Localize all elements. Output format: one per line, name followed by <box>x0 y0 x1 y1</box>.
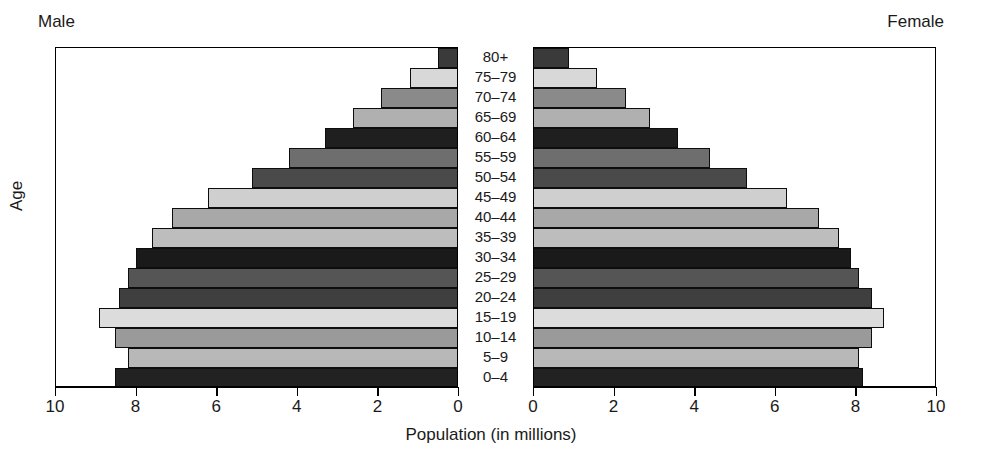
bar-row <box>56 328 457 348</box>
bar-female-0-4 <box>533 368 863 387</box>
bar-female-65-69 <box>533 108 650 128</box>
bar-row <box>534 248 935 268</box>
axis-tick <box>136 387 137 396</box>
age-label-0-4: 0–4 <box>458 367 533 387</box>
bar-male-10-14 <box>115 328 458 348</box>
bar-female-15-19 <box>533 308 884 328</box>
age-label-45-49: 45–49 <box>458 187 533 207</box>
male-x-axis-line <box>55 387 458 388</box>
bar-row <box>534 348 935 368</box>
axis-tick-label: 4 <box>277 397 317 417</box>
bar-row <box>56 168 457 188</box>
bar-female-10-14 <box>533 328 872 348</box>
age-label-15-19: 15–19 <box>458 307 533 327</box>
bar-male-45-49 <box>208 188 458 208</box>
bar-row <box>534 208 935 228</box>
bar-row <box>56 268 457 288</box>
bar-male-70-74 <box>381 88 458 108</box>
female-x-axis-line <box>533 387 936 388</box>
bar-row <box>56 208 457 228</box>
bar-male-5-9 <box>128 348 458 368</box>
bar-female-45-49 <box>533 188 787 208</box>
age-label-5-9: 5–9 <box>458 347 533 367</box>
bar-female-30-34 <box>533 248 851 268</box>
bar-row <box>534 108 935 128</box>
bar-female-75-79 <box>533 68 597 88</box>
bar-row <box>534 88 935 108</box>
age-label-65-69: 65–69 <box>458 107 533 127</box>
age-label-35-39: 35–39 <box>458 227 533 247</box>
bar-male-55-59 <box>289 148 458 168</box>
axis-tick <box>216 387 217 396</box>
y-axis-title: Age <box>7 181 27 211</box>
bar-male-35-39 <box>152 228 458 248</box>
bar-male-15-19 <box>99 308 458 328</box>
bar-row <box>56 188 457 208</box>
bar-row <box>534 48 935 68</box>
axis-tick-label: 8 <box>835 397 875 417</box>
bar-female-80+ <box>533 48 569 68</box>
bar-row <box>534 368 935 387</box>
bar-male-80+ <box>438 48 458 68</box>
axis-tick-label: 2 <box>357 397 397 417</box>
bar-female-25-29 <box>533 268 859 288</box>
male-plot-panel <box>55 47 458 387</box>
axis-tick-label: 0 <box>513 397 553 417</box>
bar-male-20-24 <box>119 288 458 308</box>
bar-female-60-64 <box>533 128 678 148</box>
bar-female-50-54 <box>533 168 747 188</box>
bar-row <box>56 368 457 387</box>
age-label-70-74: 70–74 <box>458 87 533 107</box>
bar-row <box>534 128 935 148</box>
axis-tick-label: 10 <box>35 397 75 417</box>
axis-tick <box>855 387 856 396</box>
bar-row <box>56 248 457 268</box>
bar-row <box>534 68 935 88</box>
bar-row <box>56 88 457 108</box>
axis-tick <box>936 387 937 396</box>
age-group-label-column: 80+75–7970–7465–6960–6455–5950–5445–4940… <box>458 47 533 387</box>
age-label-40-44: 40–44 <box>458 207 533 227</box>
population-pyramid-chart: Male Female Age 80+75–7970–7465–6960–645… <box>0 0 982 461</box>
bar-male-30-34 <box>136 248 458 268</box>
axis-tick <box>458 387 459 396</box>
age-label-50-54: 50–54 <box>458 167 533 187</box>
age-label-10-14: 10–14 <box>458 327 533 347</box>
bar-row <box>56 148 457 168</box>
age-label-60-64: 60–64 <box>458 127 533 147</box>
bar-female-5-9 <box>533 348 859 368</box>
bar-row <box>534 148 935 168</box>
bar-male-0-4 <box>115 368 458 387</box>
age-label-25-29: 25–29 <box>458 267 533 287</box>
bar-row <box>56 48 457 68</box>
bar-row <box>534 188 935 208</box>
bar-female-40-44 <box>533 208 819 228</box>
female-plot-panel <box>533 47 936 387</box>
bar-row <box>56 68 457 88</box>
axis-tick <box>775 387 776 396</box>
x-axis-title: Population (in millions) <box>0 425 982 445</box>
bar-row <box>56 288 457 308</box>
axis-tick <box>297 387 298 396</box>
bar-row <box>56 108 457 128</box>
bar-male-25-29 <box>128 268 458 288</box>
axis-tick <box>694 387 695 396</box>
bar-female-70-74 <box>533 88 626 108</box>
age-label-75-79: 75–79 <box>458 67 533 87</box>
bar-male-65-69 <box>353 108 458 128</box>
axis-tick <box>377 387 378 396</box>
axis-tick <box>614 387 615 396</box>
bar-row <box>534 168 935 188</box>
age-label-80+: 80+ <box>458 47 533 67</box>
bar-row <box>56 128 457 148</box>
age-label-55-59: 55–59 <box>458 147 533 167</box>
bar-row <box>56 228 457 248</box>
bar-male-60-64 <box>325 128 458 148</box>
bar-row <box>56 348 457 368</box>
bar-row <box>56 308 457 328</box>
bar-row <box>534 308 935 328</box>
bar-female-55-59 <box>533 148 710 168</box>
axis-tick-label: 6 <box>196 397 236 417</box>
male-side-label: Male <box>38 12 75 32</box>
bar-male-40-44 <box>172 208 458 228</box>
